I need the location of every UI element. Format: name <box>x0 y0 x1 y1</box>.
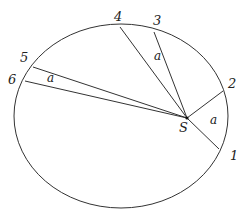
radius-vector-4 <box>120 27 187 118</box>
position-label-4: 4 <box>113 9 122 24</box>
radius-vector-5 <box>33 67 187 118</box>
diagram-svg: S 123456 aaa <box>0 0 246 216</box>
orbit-ellipse <box>14 24 228 208</box>
sector-label-5-6: a <box>47 71 54 85</box>
radius-vector-2 <box>187 91 223 118</box>
radius-vector-3 <box>154 32 187 118</box>
radius-vector-6 <box>25 81 187 118</box>
position-label-3: 3 <box>153 13 161 28</box>
position-label-6: 6 <box>8 72 16 87</box>
position-label-5: 5 <box>20 50 28 65</box>
position-label-1: 1 <box>230 148 238 163</box>
sector-label-3-4: a <box>154 49 161 63</box>
sector-label-1-2: a <box>210 113 217 127</box>
position-label-2: 2 <box>227 76 236 91</box>
kepler-orbit-diagram: S 123456 aaa <box>0 0 246 216</box>
focus-label: S <box>179 120 188 135</box>
radius-vectors <box>25 27 223 149</box>
sector-area-labels: aaa <box>47 49 217 127</box>
